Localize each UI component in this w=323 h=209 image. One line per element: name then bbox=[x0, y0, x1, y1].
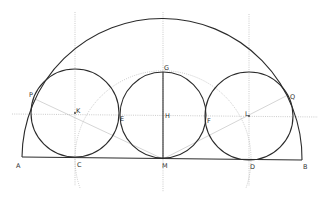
label-p: P bbox=[29, 91, 33, 99]
label-b: B bbox=[303, 163, 307, 171]
label-m: M bbox=[162, 162, 168, 170]
label-e: E bbox=[120, 115, 124, 123]
label-d: D bbox=[250, 163, 255, 171]
label-c: C bbox=[77, 161, 82, 169]
label-k: K bbox=[76, 107, 81, 115]
label-g: G bbox=[164, 64, 169, 72]
outer-semicircle bbox=[22, 18, 302, 160]
geometry-diagram: A B C D M G H K L E F P Q bbox=[0, 0, 323, 209]
label-l: L bbox=[245, 110, 249, 118]
label-h: H bbox=[165, 112, 170, 120]
label-q: Q bbox=[290, 93, 295, 101]
label-f: F bbox=[207, 117, 211, 125]
ray-q-to-m bbox=[163, 95, 288, 159]
label-a: A bbox=[16, 162, 21, 170]
